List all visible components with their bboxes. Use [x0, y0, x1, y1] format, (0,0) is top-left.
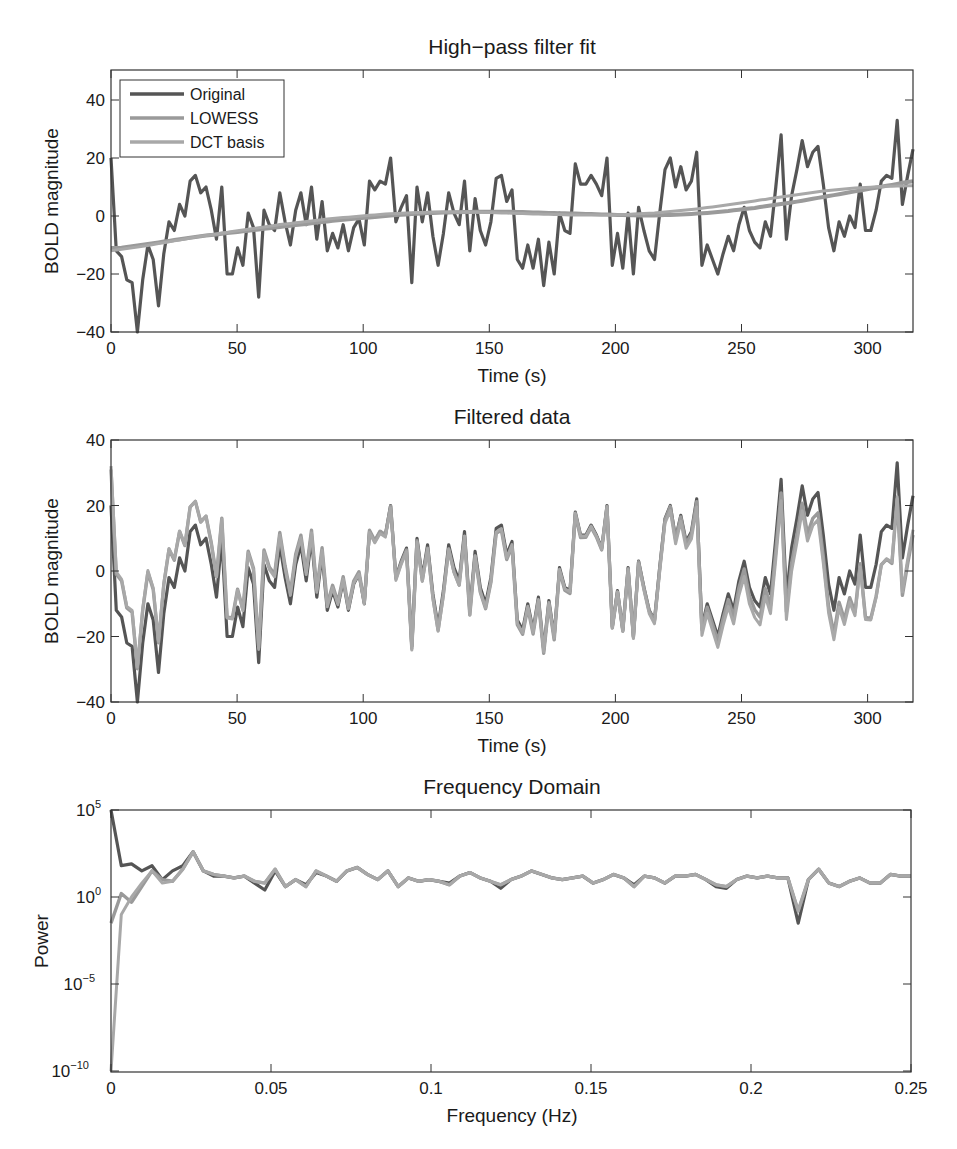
- x-tick-label: 50: [228, 709, 247, 728]
- x-tick-label: 0: [106, 1079, 115, 1098]
- y-axis-label: Power: [31, 913, 52, 968]
- figure: High−pass filter fit 0501001502002503004…: [0, 0, 957, 1149]
- y-tick-label: −20: [76, 628, 105, 647]
- legend-label-lowess: LOWESS: [190, 110, 258, 127]
- original-line: [111, 463, 913, 702]
- x-tick-label: 150: [475, 709, 503, 728]
- original-spectrum-line: [111, 810, 911, 923]
- y-tick-label: 105: [76, 798, 101, 820]
- y-tick-label: 100: [76, 885, 101, 907]
- x-tick-label: 300: [853, 709, 881, 728]
- plot-title: High−pass filter fit: [428, 35, 596, 58]
- x-axis-label: Frequency (Hz): [447, 1105, 578, 1126]
- y-tick-label: 40: [86, 431, 105, 450]
- x-tick-label: 150: [475, 339, 503, 358]
- legend-label-dct: DCT basis: [190, 134, 264, 151]
- plot-frequency-domain: Frequency Domain 00.050.10.150.20.251051…: [31, 775, 928, 1126]
- x-tick-label: 300: [853, 339, 881, 358]
- x-axis-label: Time (s): [478, 735, 547, 756]
- legend: Original LOWESS DCT basis: [120, 80, 284, 157]
- axis-ticks: 00.050.10.150.20.2510510010−510−10: [51, 798, 927, 1098]
- x-tick-label: 0.05: [254, 1079, 287, 1098]
- x-tick-label: 100: [349, 339, 377, 358]
- x-tick-label: 250: [727, 339, 755, 358]
- x-tick-label: 0: [106, 709, 115, 728]
- y-tick-label: −40: [76, 323, 105, 342]
- plot-title: Frequency Domain: [423, 775, 600, 798]
- x-tick-label: 100: [349, 709, 377, 728]
- x-tick-label: 250: [727, 709, 755, 728]
- x-axis-label: Time (s): [478, 365, 547, 386]
- dct-spectrum-line: [111, 852, 911, 1071]
- y-tick-label: 20: [86, 497, 105, 516]
- x-tick-label: 50: [228, 339, 247, 358]
- x-tick-label: 200: [601, 709, 629, 728]
- y-tick-label: 0: [96, 562, 105, 581]
- plot-highpass-fit: High−pass filter fit 0501001502002503004…: [41, 35, 913, 386]
- y-tick-label: −40: [76, 693, 105, 712]
- plot-title: Filtered data: [454, 405, 571, 428]
- y-axis-label: BOLD magnitude: [41, 128, 62, 274]
- legend-label-original: Original: [190, 86, 245, 103]
- x-tick-label: 0.15: [574, 1079, 607, 1098]
- plot-lines: [111, 810, 911, 1071]
- y-tick-label: 0: [96, 207, 105, 226]
- y-tick-label: −20: [76, 265, 105, 284]
- plot-filtered-data: Filtered data 05010015020025030040200−20…: [41, 405, 913, 756]
- x-tick-label: 0: [106, 339, 115, 358]
- y-tick-label: 20: [86, 149, 105, 168]
- x-tick-label: 0.1: [419, 1079, 443, 1098]
- y-tick-label: 10−10: [51, 1059, 89, 1081]
- y-axis-label: BOLD magnitude: [41, 498, 62, 644]
- plot-frame: [111, 810, 911, 1072]
- y-tick-label: 10−5: [64, 972, 95, 994]
- y-tick-label: 40: [86, 91, 105, 110]
- x-tick-label: 200: [601, 339, 629, 358]
- plot-lines: [111, 463, 913, 702]
- x-tick-label: 0.25: [894, 1079, 927, 1098]
- x-tick-label: 0.2: [739, 1079, 763, 1098]
